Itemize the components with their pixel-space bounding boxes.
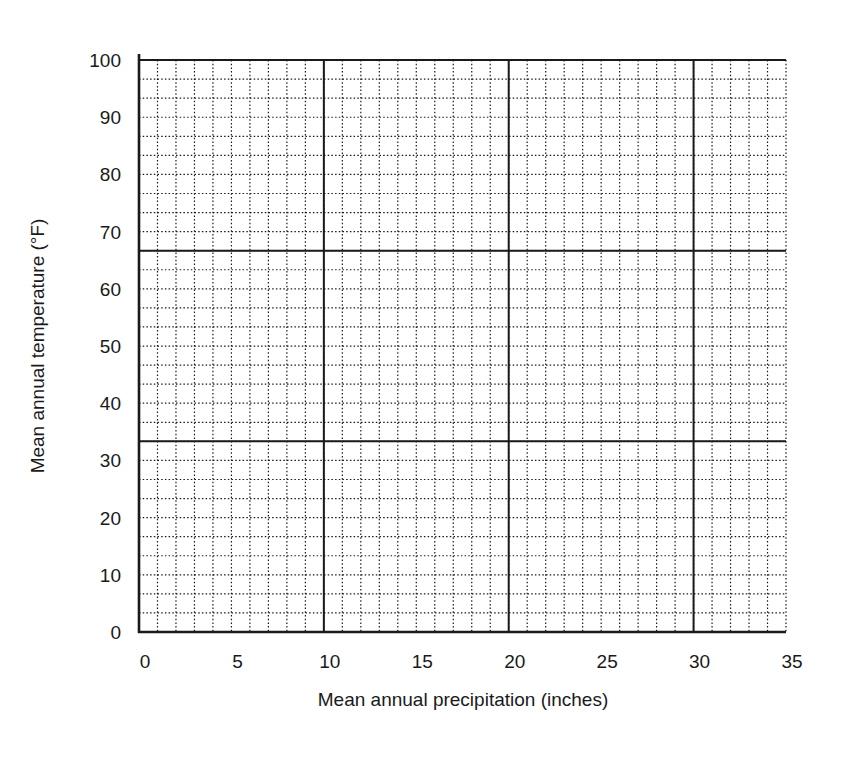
x-axis-title: Mean annual precipitation (inches) [318,689,608,710]
axes [138,54,786,633]
x-tick-label: 25 [597,651,618,672]
y-axis-title: Mean annual temperature (°F) [27,219,48,474]
x-tick-label: 10 [319,651,340,672]
y-tick-label: 100 [89,50,121,71]
y-tick-label: 90 [100,107,121,128]
y-tick-label: 10 [100,565,121,586]
x-tick-label: 30 [689,651,710,672]
y-tick-label: 0 [110,622,121,643]
chart: 05101520253035 0102030405060708090100 Me… [0,0,841,761]
y-tick-label: 30 [100,450,121,471]
y-tick-label: 50 [100,336,121,357]
x-tick-label: 20 [504,651,525,672]
y-tick-labels: 0102030405060708090100 [89,50,121,643]
y-tick-label: 60 [100,279,121,300]
x-tick-labels: 05101520253035 [140,651,803,672]
x-tick-label: 35 [781,651,802,672]
y-tick-label: 70 [100,222,121,243]
y-tick-label: 40 [100,393,121,414]
y-tick-label: 80 [100,164,121,185]
x-tick-label: 5 [232,651,243,672]
x-tick-label: 15 [412,651,433,672]
y-tick-label: 20 [100,508,121,529]
x-tick-label: 0 [140,651,151,672]
minor-grid [139,60,786,632]
